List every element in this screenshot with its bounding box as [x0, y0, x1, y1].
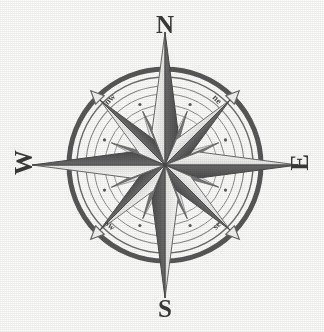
label-east: E: [287, 149, 312, 177]
label-south: S: [151, 296, 179, 321]
band-dot: [103, 189, 106, 192]
band-dot: [189, 103, 192, 106]
label-north: N: [151, 12, 179, 37]
band-dot: [224, 138, 227, 141]
band-dot: [138, 103, 141, 106]
band-dot: [189, 224, 192, 227]
compass-center-hub: [163, 163, 167, 167]
band-dot: [138, 224, 141, 227]
compass-rose-figure: N E S W nw ne sw se: [0, 0, 324, 332]
compass-rose-graphic: [0, 0, 324, 332]
band-dot: [224, 189, 227, 192]
band-dot: [103, 138, 106, 141]
label-west: W: [11, 149, 36, 177]
